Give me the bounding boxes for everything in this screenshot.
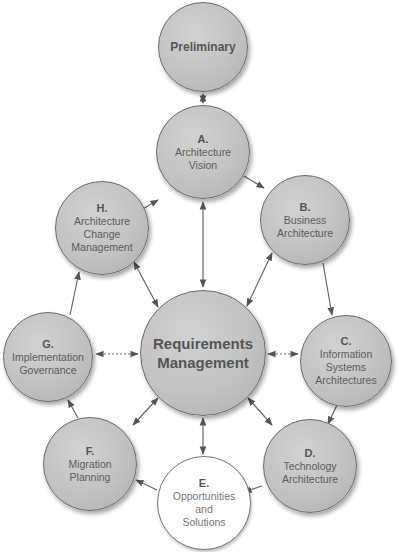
arrow-center-h [134, 262, 158, 307]
node-c-line-1: Information [320, 348, 373, 361]
node-d-line-1: Technology [283, 460, 336, 473]
node-h-letter: H. [97, 202, 108, 215]
arrow-c-d [328, 405, 337, 424]
node-a-letter: A. [198, 133, 209, 146]
arrow-g-h [70, 272, 79, 315]
node-c-line-2: Systems [326, 361, 366, 374]
node-e-letter: E. [199, 477, 209, 490]
node-f-line-1: Migration [68, 458, 111, 471]
node-a-line-1: Architecture [175, 146, 231, 159]
node-requirements-management[interactable]: Requirements Management [140, 290, 266, 416]
arrow-center-b [247, 253, 272, 306]
node-e-line-1: Opportunities [173, 490, 235, 503]
node-preliminary[interactable]: Preliminary [158, 2, 248, 92]
node-g-letter: G. [42, 338, 54, 351]
node-a-architecture-vision[interactable]: A. Architecture Vision [156, 105, 250, 199]
arrow-center-d [248, 398, 272, 425]
node-c-letter: C. [341, 335, 352, 348]
node-f-line-2: Planning [70, 471, 111, 484]
node-d-letter: D. [305, 447, 316, 460]
node-h-line-1: Architecture [74, 215, 130, 228]
node-c-line-3: Architectures [315, 374, 376, 387]
node-d-technology-architecture[interactable]: D. Technology Architecture [263, 419, 357, 513]
arrow-a-b [244, 176, 264, 188]
node-b-line-2: Architecture [277, 227, 333, 240]
node-b-letter: B. [300, 201, 311, 214]
node-b-line-1: Business [284, 214, 327, 227]
node-c-information-systems-architectures[interactable]: C. Information Systems Architectures [300, 315, 392, 407]
arrow-f-g [68, 400, 78, 418]
node-g-implementation-governance[interactable]: G. Implementation Governance [3, 312, 93, 402]
node-e-opportunities-and-solutions[interactable]: E. Opportunities and Solutions [157, 456, 251, 550]
node-d-line-2: Architecture [282, 473, 338, 486]
node-e-line-3: Solutions [182, 516, 225, 529]
node-b-business-architecture[interactable]: B. Business Architecture [260, 175, 350, 265]
node-center-line-2: Management [157, 353, 249, 372]
node-h-line-3: Management [71, 241, 132, 254]
node-e-line-2: and [195, 503, 213, 516]
node-h-line-2: Change [84, 228, 121, 241]
node-f-migration-planning[interactable]: F. Migration Planning [43, 417, 137, 511]
node-preliminary-label: Preliminary [170, 41, 235, 54]
arrow-center-f [133, 398, 158, 425]
arrow-e-f [136, 480, 157, 490]
node-a-line-2: Vision [189, 159, 217, 172]
node-center-line-1: Requirements [153, 334, 253, 353]
node-g-line-1: Implementation [12, 351, 84, 364]
node-f-letter: F. [86, 445, 95, 458]
node-g-line-2: Governance [19, 364, 76, 377]
arrow-b-c [323, 263, 332, 315]
node-h-architecture-change-management[interactable]: H. Architecture Change Management [55, 181, 149, 275]
